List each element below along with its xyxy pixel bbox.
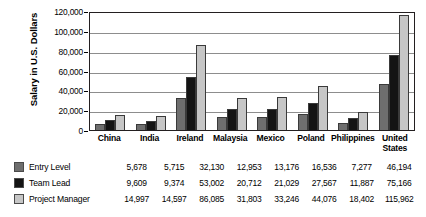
value-entry-level-malaysia: 12,953: [231, 162, 269, 172]
bar-team-lead-united-states: [389, 55, 399, 130]
value-project-manager-ireland: 86,085: [193, 194, 231, 204]
bar-group-united-states: [374, 13, 415, 130]
value-project-manager-mexico: 33,246: [268, 194, 306, 204]
value-project-manager-china: 14,997: [118, 194, 156, 204]
bar-project-manager-ireland: [196, 45, 206, 130]
bar-entry-level-poland: [298, 114, 308, 130]
chart-page: Salary in U.S. Dollars 020,00040,00060,0…: [0, 0, 426, 217]
x-label-mexico: Mexico: [250, 134, 290, 158]
value-cells: 9,6099,37453,00220,71221,02927,56711,887…: [118, 178, 418, 188]
value-entry-level-india: 5,715: [156, 162, 194, 172]
legend-item-project-manager[interactable]: Project Manager: [14, 194, 118, 204]
bar-group-india: [131, 13, 172, 130]
plot-area: [89, 12, 415, 131]
y-axis-tick-120000: 120,000: [54, 7, 83, 17]
y-axis-tick-labels: 020,00040,00060,00080,000100,000120,000: [42, 0, 88, 140]
legend-label: Team Lead: [29, 178, 70, 188]
legend-item-team-lead[interactable]: Team Lead: [14, 178, 118, 188]
legend-data-table: Entry Level5,6785,71532,13012,95313,1761…: [14, 159, 418, 207]
value-project-manager-malaysia: 31,803: [231, 194, 269, 204]
bar-group-mexico: [252, 13, 293, 130]
value-entry-level-poland: 16,536: [306, 162, 344, 172]
bar-group-poland: [293, 13, 334, 130]
bar-project-manager-china: [115, 115, 125, 130]
bar-group-philippines: [333, 13, 374, 130]
bar-entry-level-mexico: [257, 117, 267, 130]
value-team-lead-united-states: 75,166: [381, 178, 419, 188]
x-label-philippines: Philippines: [331, 134, 375, 158]
bar-entry-level-india: [136, 124, 146, 130]
bar-team-lead-philippines: [348, 118, 358, 130]
value-entry-level-ireland: 32,130: [193, 162, 231, 172]
value-team-lead-poland: 27,567: [306, 178, 344, 188]
legend-swatch-icon: [14, 162, 24, 172]
value-entry-level-china: 5,678: [118, 162, 156, 172]
x-label-china: China: [89, 134, 129, 158]
value-team-lead-ireland: 53,002: [193, 178, 231, 188]
y-axis-tick-0: 0: [79, 126, 83, 136]
bar-group-china: [90, 13, 131, 130]
table-row: Entry Level5,6785,71532,13012,95313,1761…: [14, 159, 418, 175]
value-entry-level-united-states: 46,194: [381, 162, 419, 172]
y-axis-tick-20000: 20,000: [59, 106, 83, 116]
value-team-lead-philippines: 11,887: [343, 178, 381, 188]
bar-group-malaysia: [212, 13, 253, 130]
bar-team-lead-china: [105, 120, 115, 130]
bar-project-manager-mexico: [277, 97, 287, 130]
bar-team-lead-poland: [308, 103, 318, 130]
bar-entry-level-malaysia: [217, 117, 227, 130]
y-axis-tick-60000: 60,000: [59, 67, 83, 77]
y-axis-tick-100000: 100,000: [54, 27, 83, 37]
value-entry-level-philippines: 7,277: [343, 162, 381, 172]
table-row: Project Manager14,99714,59786,08531,8033…: [14, 191, 418, 207]
bar-project-manager-philippines: [358, 112, 368, 130]
value-project-manager-poland: 44,076: [306, 194, 344, 204]
legend-swatch-icon: [14, 178, 24, 188]
legend-label: Project Manager: [29, 194, 90, 204]
bar-entry-level-china: [95, 124, 105, 130]
bar-team-lead-malaysia: [227, 109, 237, 130]
value-team-lead-malaysia: 20,712: [231, 178, 269, 188]
bar-project-manager-poland: [318, 86, 328, 130]
y-axis-tick-80000: 80,000: [59, 47, 83, 57]
value-team-lead-india: 9,374: [156, 178, 194, 188]
bar-team-lead-mexico: [267, 109, 277, 130]
x-label-malaysia: Malaysia: [210, 134, 250, 158]
value-project-manager-india: 14,597: [156, 194, 194, 204]
table-row: Team Lead9,6099,37453,00220,71221,02927,…: [14, 175, 418, 191]
y-axis-tick-40000: 40,000: [59, 86, 83, 96]
x-label-united-states: United States: [375, 134, 415, 158]
value-cells: 5,6785,71532,13012,95313,17616,5367,2774…: [118, 162, 418, 172]
value-team-lead-china: 9,609: [118, 178, 156, 188]
value-team-lead-mexico: 21,029: [268, 178, 306, 188]
x-axis-category-labels: ChinaIndiaIrelandMalaysiaMexicoPolandPhi…: [89, 134, 415, 158]
bar-entry-level-united-states: [379, 84, 389, 130]
bar-entry-level-philippines: [338, 123, 348, 130]
legend-label: Entry Level: [29, 162, 70, 172]
bar-project-manager-united-states: [399, 15, 409, 130]
bars-layer: [90, 13, 414, 130]
x-label-india: India: [129, 134, 169, 158]
legend-swatch-icon: [14, 194, 24, 204]
bar-project-manager-india: [156, 116, 166, 130]
bar-group-ireland: [171, 13, 212, 130]
bar-entry-level-ireland: [176, 98, 186, 130]
y-axis-title: Salary in U.S. Dollars: [28, 0, 39, 120]
value-cells: 14,99714,59786,08531,80333,24644,07618,4…: [118, 194, 418, 204]
x-label-ireland: Ireland: [170, 134, 210, 158]
value-entry-level-mexico: 13,176: [268, 162, 306, 172]
bar-team-lead-ireland: [186, 77, 196, 130]
value-project-manager-united-states: 115,962: [381, 194, 419, 204]
x-label-poland: Poland: [291, 134, 331, 158]
bar-team-lead-india: [146, 121, 156, 130]
value-project-manager-philippines: 18,402: [343, 194, 381, 204]
legend-item-entry-level[interactable]: Entry Level: [14, 162, 118, 172]
bar-project-manager-malaysia: [237, 98, 247, 130]
